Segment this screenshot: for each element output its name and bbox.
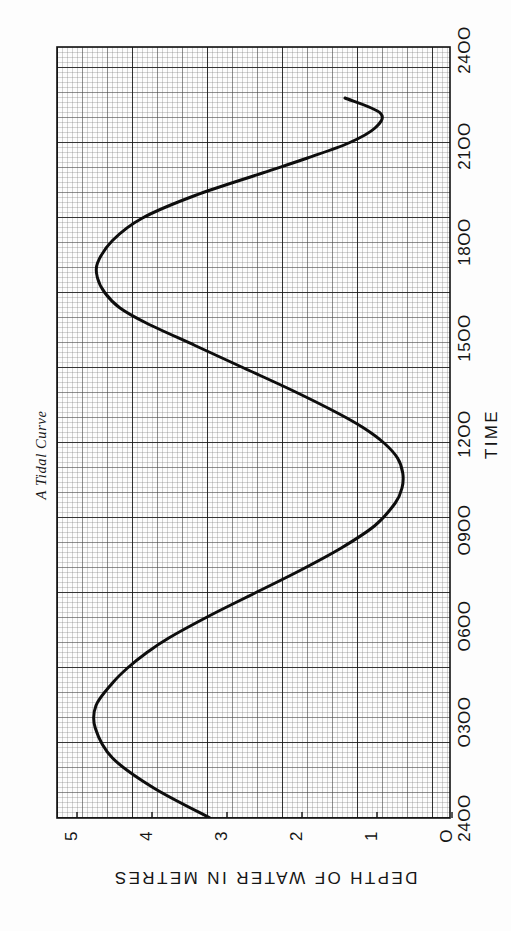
scanned-chart-page: 5 4 3 2 1 O — [0, 0, 511, 931]
depth-tick-3: 3 — [212, 831, 231, 841]
tidal-curve-figure: 5 4 3 2 1 O — [0, 0, 511, 931]
page-title: A Tidal Curve — [33, 411, 49, 501]
depth-tick-1: 1 — [362, 831, 381, 841]
time-tick-0300: O3OO — [455, 696, 474, 747]
time-tick-0600: O6OO — [455, 600, 474, 651]
time-axis-tick-labels: 24OO O3OO O6OO O9OO 12OO 15OO 18OO 21OO — [455, 26, 474, 841]
time-tick-1200: 12OO — [455, 410, 474, 457]
depth-tick-5: 5 — [62, 831, 81, 841]
time-axis-title: TIME — [482, 409, 501, 459]
time-tick-0900: O9OO — [455, 504, 474, 555]
time-tick-1500: 15OO — [455, 314, 474, 361]
depth-axis-tick-labels: 5 4 3 2 1 O — [62, 829, 456, 843]
depth-tick-0: O — [437, 829, 456, 843]
time-tick-2400-start: 24OO — [455, 794, 474, 841]
time-tick-2100: 21OO — [455, 122, 474, 169]
depth-axis-title: DEPTH OF WATER IN METRES — [112, 868, 417, 887]
depth-tick-4: 4 — [137, 831, 156, 841]
depth-tick-2: 2 — [287, 831, 306, 841]
time-tick-1800: 18OO — [455, 218, 474, 265]
graph-paper-grid — [57, 47, 450, 818]
time-tick-2400-end: 24OO — [455, 26, 474, 73]
